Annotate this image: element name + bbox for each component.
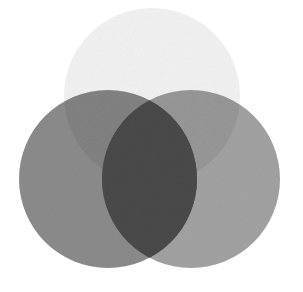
venn-diagram-canvas: [0, 0, 303, 292]
venn-diagram: [0, 0, 303, 292]
